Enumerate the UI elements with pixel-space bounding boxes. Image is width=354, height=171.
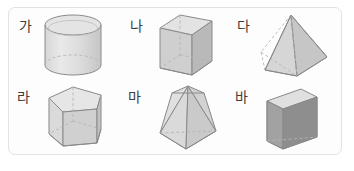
shape-cell-pentagonal-pyramid: 마	[124, 82, 235, 154]
shape-label-ra: 라	[17, 90, 30, 104]
rectangular-prism-icon	[154, 12, 224, 82]
shape-cell-square-pyramid: 다	[231, 11, 342, 83]
shape-cell-triangular-prism: 바	[231, 82, 342, 154]
pentagonal-prism-icon	[39, 83, 115, 155]
shape-label-na: 나	[130, 19, 143, 33]
pentagonal-pyramid-icon	[154, 83, 226, 155]
shape-label-ba: 바	[235, 90, 248, 104]
shape-label-ga: 가	[19, 19, 32, 33]
shape-cell-pentagonal-prism: 라	[13, 82, 124, 154]
cylinder-icon	[39, 12, 113, 82]
solids-panel: 가 나	[8, 7, 342, 155]
shape-cell-cuboid: 나	[124, 11, 235, 83]
shape-label-da: 다	[237, 19, 250, 33]
triangular-prism-icon	[257, 83, 329, 155]
shape-cell-cylinder: 가	[13, 11, 124, 83]
square-pyramid-icon	[257, 12, 335, 82]
shape-label-ma: 마	[128, 90, 141, 104]
